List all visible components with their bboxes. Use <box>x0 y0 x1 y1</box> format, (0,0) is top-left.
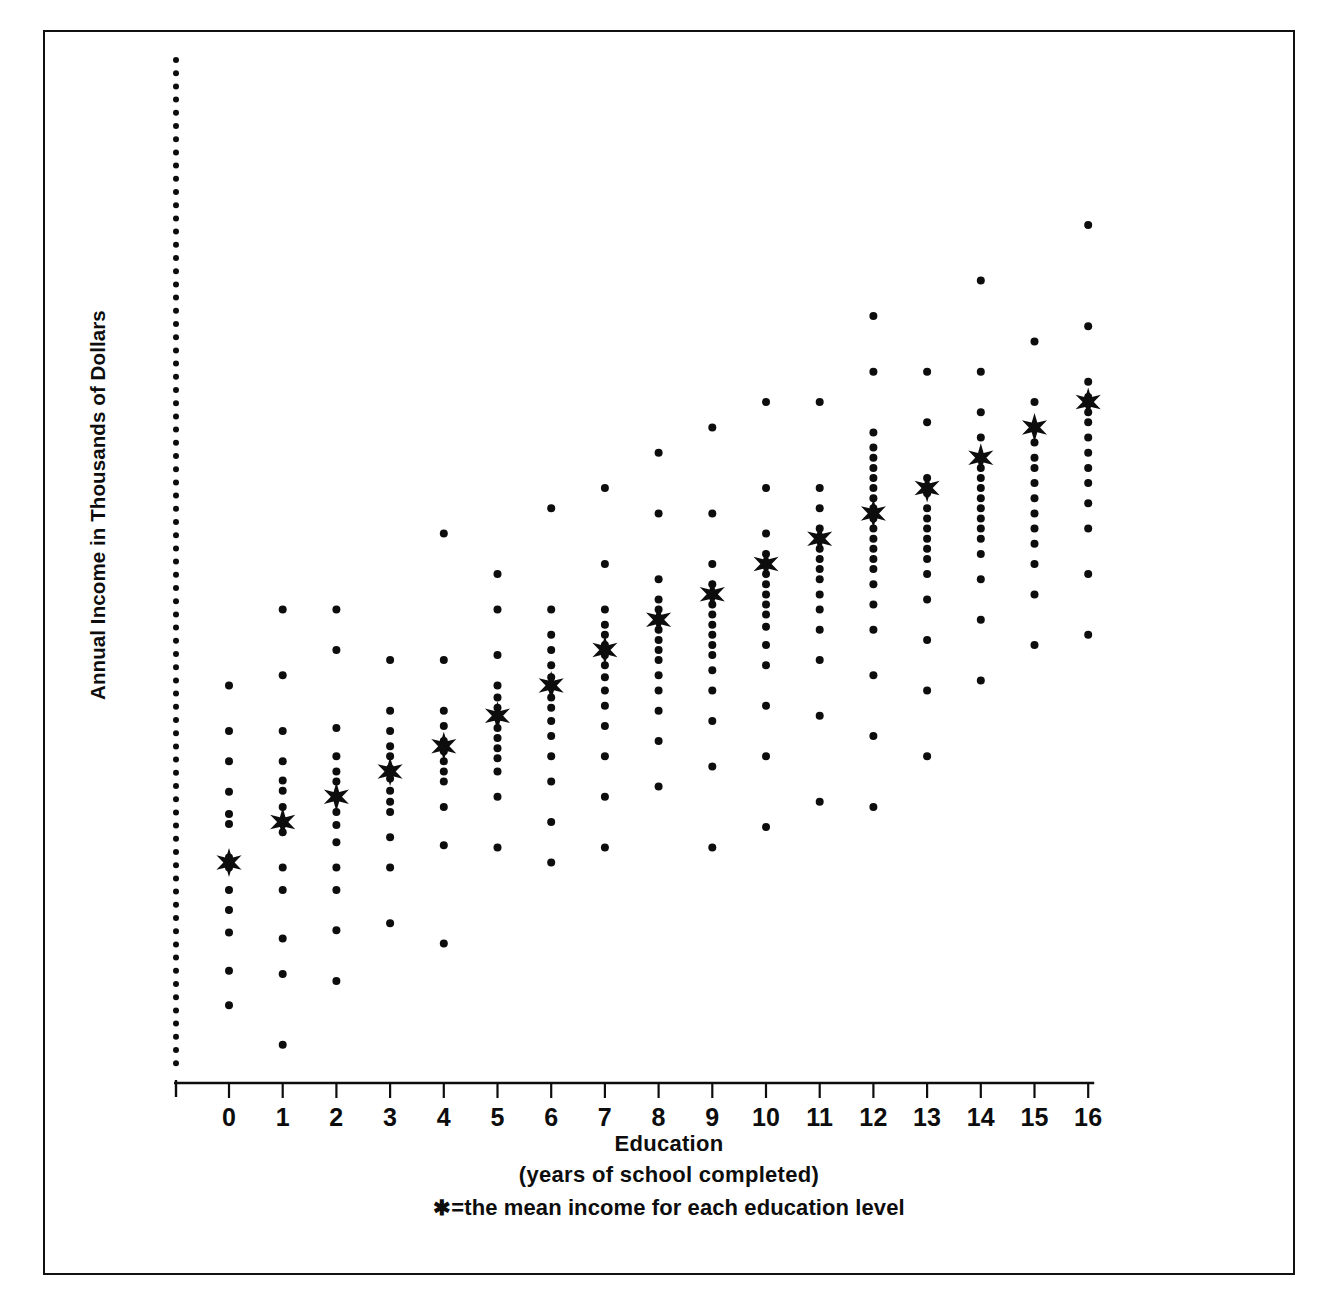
legend-note: ✱=the mean income for each education lev… <box>43 1192 1295 1224</box>
figure-root: 012345678910111213141516 Annual Income i… <box>0 0 1326 1306</box>
x-axis-title: Education <box>43 1128 1295 1159</box>
figure-border <box>43 30 1295 1275</box>
caption-block: Education (years of school completed) ✱=… <box>43 1128 1295 1224</box>
x-axis-subtitle: (years of school completed) <box>43 1159 1295 1190</box>
legend-star-icon: ✱ <box>433 1196 451 1219</box>
y-axis-title: Annual Income in Thousands of Dollars <box>86 310 110 700</box>
legend-text: =the mean income for each education leve… <box>451 1195 904 1220</box>
